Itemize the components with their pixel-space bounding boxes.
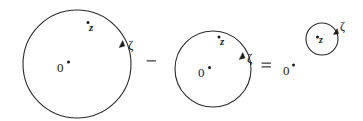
term-2-group (175, 31, 251, 107)
direction-arrow-icon-small (333, 29, 338, 35)
label-zero-medium: 0 (198, 66, 205, 79)
direction-arrow-icon-medium (239, 52, 245, 59)
contour-circle-large (23, 10, 131, 118)
point-dot-zero-large (67, 61, 70, 64)
operator-minus-glyph (147, 60, 157, 61)
point-dot-zero-origin (292, 64, 295, 67)
term-3-group (292, 23, 339, 67)
label-z-medium: z (220, 36, 224, 47)
label-zeta-medium: ζ (247, 51, 252, 64)
term-1-group (23, 10, 131, 118)
label-zeta-large: ζ (128, 38, 133, 51)
label-z-small: z (319, 35, 323, 45)
label-zero-large: 0 (57, 61, 64, 74)
point-dot-zero-medium (208, 66, 211, 69)
contour-circle-medium (175, 31, 251, 107)
direction-arrow-icon-large (119, 40, 125, 47)
operator-equals-glyph (262, 63, 272, 68)
label-zero-origin: 0 (283, 64, 290, 77)
label-z-large: z (89, 22, 93, 33)
label-zeta-small: ζ (340, 20, 345, 32)
figure-canvas: z 0 ζ z 0 ζ z 0 ζ (0, 0, 363, 121)
contour-diagram-svg (0, 0, 363, 121)
